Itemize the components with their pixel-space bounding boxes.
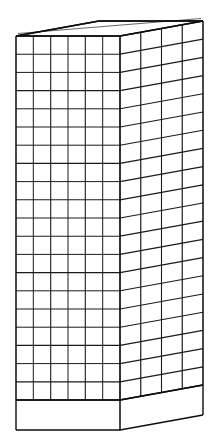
front-face-grid: [16, 36, 120, 400]
face-fills: [16, 21, 203, 430]
slab-axonometric-drawing: Axonometric line drawing of a gridded re…: [0, 0, 215, 440]
figure-root: Axonometric line drawing of a gridded re…: [0, 0, 215, 440]
base-band-front: [16, 400, 120, 430]
